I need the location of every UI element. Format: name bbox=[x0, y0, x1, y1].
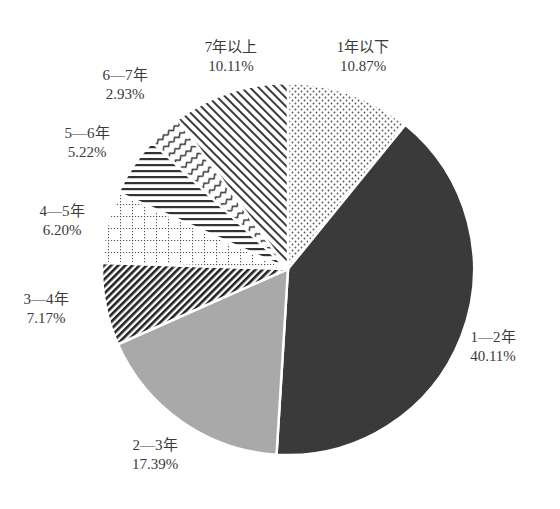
label-5-6-years: 5—6年 5.22% bbox=[42, 124, 132, 162]
label-name: 2—3年 bbox=[110, 436, 200, 455]
label-name: 3—4年 bbox=[0, 290, 92, 309]
label-percent: 10.11% bbox=[186, 57, 276, 76]
label-percent: 2.93% bbox=[80, 85, 170, 104]
label-name: 6—7年 bbox=[80, 66, 170, 85]
label-1-2-years: 1—2年 40.11% bbox=[448, 328, 538, 366]
label-percent: 17.39% bbox=[110, 455, 200, 474]
label-2-3-years: 2—3年 17.39% bbox=[110, 436, 200, 474]
label-percent: 40.11% bbox=[448, 347, 538, 366]
label-percent: 5.22% bbox=[42, 143, 132, 162]
label-name: 5—6年 bbox=[42, 124, 132, 143]
label-over-7-years: 7年以上 10.11% bbox=[186, 38, 276, 76]
label-name: 1年以下 bbox=[318, 38, 408, 57]
label-4-5-years: 4—5年 6.20% bbox=[17, 202, 107, 240]
label-percent: 6.20% bbox=[17, 221, 107, 240]
label-6-7-years: 6—7年 2.93% bbox=[80, 66, 170, 104]
label-name: 1—2年 bbox=[448, 328, 538, 347]
label-percent: 7.17% bbox=[0, 309, 92, 328]
label-name: 7年以上 bbox=[186, 38, 276, 57]
label-name: 4—5年 bbox=[17, 202, 107, 221]
label-under-1-year: 1年以下 10.87% bbox=[318, 38, 408, 76]
label-percent: 10.87% bbox=[318, 57, 408, 76]
label-3-4-years: 3—4年 7.17% bbox=[0, 290, 92, 328]
